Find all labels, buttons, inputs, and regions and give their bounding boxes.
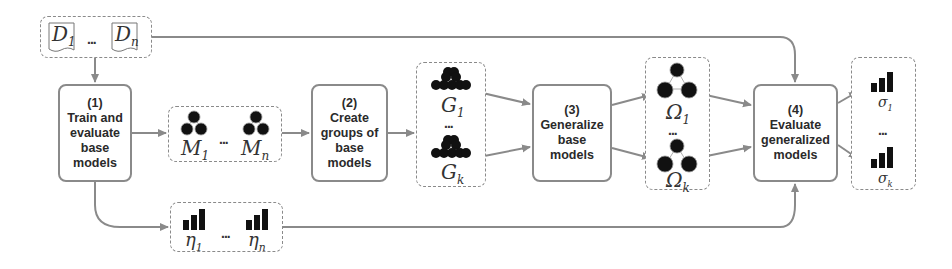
tree-model-icon — [181, 111, 207, 135]
generalized-model-last-label: Ωk — [666, 168, 690, 195]
step-label-line: base — [81, 141, 110, 156]
step-label-line: evaluate — [70, 126, 120, 141]
step-label-line: models — [73, 156, 117, 171]
step-generalize: (3) Generalize base models — [532, 84, 612, 182]
step-number: (4) — [788, 103, 803, 118]
pipeline-diagram: D1 ... Dn (1) Train and evaluate base mo… — [0, 0, 952, 269]
step-label-line: generalized — [761, 133, 830, 148]
step-label-line: groups of — [321, 126, 379, 141]
bar-chart-icon — [871, 72, 893, 92]
step-number: (3) — [564, 103, 579, 118]
base-model-last-label: Mn — [241, 136, 269, 163]
step-label-line: Train and — [67, 111, 123, 126]
base-scores-group: η1 ... ηn — [170, 202, 283, 252]
model-group-icon — [431, 135, 471, 158]
step-number: (2) — [342, 96, 357, 111]
step-label-line: models — [774, 148, 818, 163]
base-score-last-label: ηn — [248, 229, 266, 254]
ellipsis: ... — [87, 31, 96, 47]
dataset-last-label: Dn — [115, 22, 139, 49]
ellipsis: ... — [668, 122, 677, 138]
step-label-line: base — [335, 141, 364, 156]
base-score-first-label: η1 — [185, 229, 203, 254]
dataset-first-label: D1 — [52, 22, 76, 49]
bar-chart-icon — [183, 209, 205, 230]
step-label-line: base — [558, 133, 587, 148]
step-create-groups: (2) Create groups of base models — [311, 84, 388, 182]
step-label-line: models — [328, 156, 372, 171]
step-label-line: models — [550, 148, 594, 163]
generalized-score-first-label: σ1 — [878, 94, 893, 113]
step-label-line: Create — [330, 111, 369, 126]
group-last-label: Gk — [441, 160, 464, 187]
step-train-evaluate: (1) Train and evaluate base models — [58, 84, 132, 182]
ellipsis: ... — [878, 122, 887, 138]
ellipsis: ... — [444, 115, 453, 131]
model-groups-group: G1 ... Gk — [416, 62, 486, 187]
tree-model-icon — [657, 63, 697, 98]
base-models-group: M1 ... Mn — [168, 106, 282, 162]
bar-chart-icon — [871, 147, 893, 168]
model-group-icon — [431, 67, 471, 90]
ellipsis: ... — [221, 225, 230, 241]
generalized-score-last-label: σk — [878, 170, 893, 189]
dataset-group: D1 ... Dn — [40, 16, 152, 58]
base-model-first-label: M1 — [181, 136, 209, 163]
step-label-line: Evaluate — [770, 118, 821, 133]
ellipsis: ... — [219, 131, 228, 147]
generalized-models-group: Ω1 ... Ωk — [645, 57, 710, 190]
step-evaluate-generalized: (4) Evaluate generalized models — [753, 84, 838, 182]
step-label-line: Generalize — [540, 118, 603, 133]
bar-chart-icon — [246, 209, 268, 230]
tree-model-icon — [243, 111, 269, 135]
step-number: (1) — [87, 96, 102, 111]
generalized-scores-group: σ1 ... σk — [851, 57, 916, 190]
